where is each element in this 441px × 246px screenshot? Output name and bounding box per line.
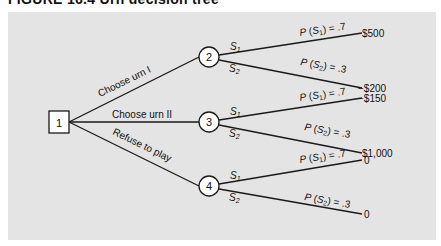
state-n4-s2: S2 [229,192,240,204]
payoff-n4-s1: 0 [364,155,370,166]
chance-node-2: 2 [199,47,219,67]
chance-node-4: 4 [199,176,219,196]
state-n4-s1: S1 [230,170,241,182]
prob-n2-s2: P (S2) = .3 [299,56,347,76]
payoff-n4-s2: 0 [364,209,370,220]
payoff-n3-s1: −$150 [358,93,387,104]
label-choose-urn-1: Choose urn I [96,64,152,99]
branch-refuse [69,122,199,186]
payoff-n2-s1: $500 [362,28,385,39]
state-n3-s1: S1 [230,106,241,118]
state-n3-s2: S2 [229,128,240,140]
state-n2-s2: S2 [229,63,240,75]
svg-text:1: 1 [56,117,62,129]
prob-n3-s2: P (S2) = .3 [303,121,351,141]
state-n2-s1: S1 [230,41,241,53]
decision-node-1: 1 [49,111,69,133]
label-choose-urn-2: Choose urn II [112,109,172,120]
svg-text:4: 4 [206,180,212,192]
svg-text:3: 3 [206,116,212,128]
chance-node-3: 3 [199,112,219,132]
svg-text:2: 2 [206,51,212,63]
decision-tree: 1 2 3 4 Choose urn I Choose urn II Refus… [0,0,441,246]
